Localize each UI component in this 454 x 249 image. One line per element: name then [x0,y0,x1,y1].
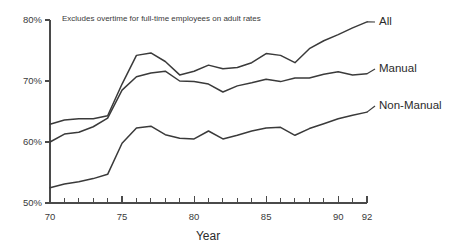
x-tick-label: 80 [189,211,200,222]
series-leader-manual [367,69,375,74]
series-lines-group [50,22,367,188]
x-tick-label: 70 [45,211,56,222]
chart-subtitle-note: Excludes overtime for full-time employee… [62,14,261,23]
y-axis-ticks [45,20,50,203]
x-tick-label: 85 [261,211,272,222]
x-axis-minor-ticks [64,198,352,203]
line-chart: 50%60%70%80% 707580859092 AllManualNon-M… [0,0,454,249]
x-tick-label: 90 [333,211,344,222]
x-axis-tick-labels: 707580859092 [45,211,373,222]
series-label-non-manual: Non-Manual [379,99,442,111]
series-leader-lines [367,22,375,112]
y-axis-tick-labels: 50%60%70%80% [23,14,43,208]
series-leader-non-manual [367,106,375,112]
series-label-manual: Manual [379,62,417,74]
y-tick-label: 60% [23,136,43,147]
chart-container: 50%60%70%80% 707580859092 AllManualNon-M… [0,0,454,249]
series-line-all [50,22,367,124]
x-axis-title: Year [196,229,220,243]
series-labels-group: AllManualNon-Manual [379,15,442,111]
x-tick-label: 75 [117,211,128,222]
y-tick-label: 80% [23,14,43,25]
y-tick-label: 50% [23,197,43,208]
y-tick-label: 70% [23,75,43,86]
x-tick-label: 92 [362,211,373,222]
series-label-all: All [379,15,392,27]
